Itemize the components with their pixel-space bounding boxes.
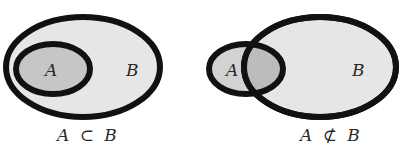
subset-diagram: A B A ⊂ B [6, 17, 160, 145]
subset-caption: A ⊂ B [55, 125, 117, 145]
set-b-label: B [351, 60, 365, 80]
set-b-label: B [125, 60, 139, 80]
not-subset-diagram: A B A ⊄ B [209, 17, 396, 145]
caption-left-set: A [298, 125, 312, 145]
not-subset-caption: A ⊄ B [298, 125, 360, 145]
set-a-label: A [43, 60, 57, 80]
set-a-label: A [224, 60, 238, 80]
not-subset-symbol: ⊄ [323, 125, 337, 145]
caption-left-set: A [55, 125, 69, 145]
caption-right-set: B [103, 125, 117, 145]
caption-right-set: B [346, 125, 360, 145]
subset-symbol: ⊂ [80, 125, 94, 145]
venn-diagrams-canvas: A B A ⊂ B A B A ⊄ B [0, 0, 402, 153]
